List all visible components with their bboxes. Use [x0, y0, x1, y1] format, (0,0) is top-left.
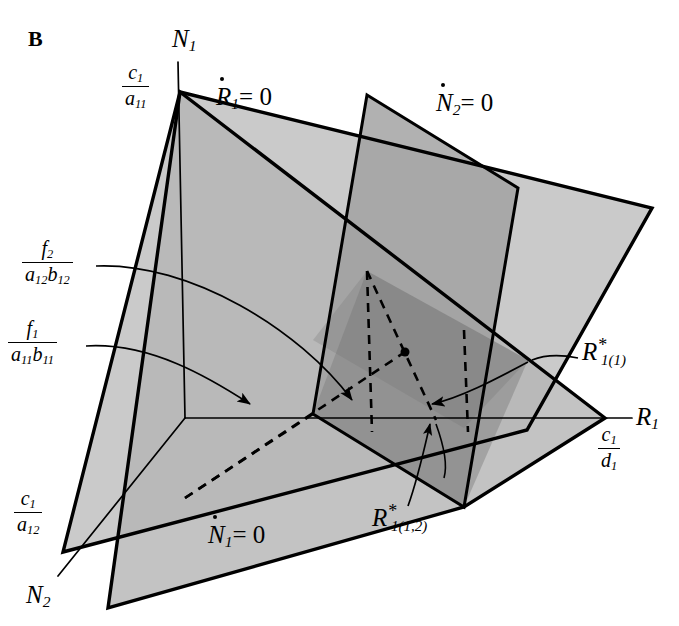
intercept-label-f1-a11b11: f1 a11b11	[8, 318, 57, 367]
fraction-numerator: c1	[598, 424, 620, 448]
nullcline-ndot1-equals: = 0	[232, 521, 265, 548]
fraction-denominator: a12b12	[22, 262, 73, 287]
nullcline-rdot1-symbol: R	[216, 83, 231, 110]
den-sub-b: 12	[57, 273, 69, 287]
intercept-label-c1-a12: c1 a12	[14, 488, 42, 537]
nullcline-ndot2-equals: = 0	[460, 89, 493, 116]
den-sub-a: 11	[21, 353, 32, 367]
den-symbol-a: a	[11, 343, 21, 365]
ndot1-symbol-with-dot: N	[208, 522, 225, 547]
equilibrium-label-r1-star-1-2: R*1(1,2)	[372, 502, 427, 534]
axis-label-n1-sub: 1	[189, 37, 197, 54]
nullcline-label-ndot1: N1= 0	[208, 522, 265, 550]
intercept-label-c1-d1: c1 d1	[598, 424, 620, 473]
axis-label-n2-symbol: N	[26, 581, 43, 608]
num-sub: 1	[32, 327, 38, 341]
den-sub: 1	[611, 459, 617, 473]
equilibrium-label-r1-star-1: R*1(1)	[582, 336, 626, 368]
fraction-numerator: f2	[22, 238, 73, 262]
overdot-icon	[213, 515, 217, 519]
axis-label-n1: N1	[172, 26, 196, 54]
figure-panel-b: B N1 R1 N2 R1= 0 N2= 0 N1= 0 c1 a11 f2	[0, 0, 679, 626]
axis-label-n2-sub: 2	[43, 593, 51, 610]
fraction-denominator: a12	[14, 512, 42, 537]
ndot2-symbol-with-dot: N	[436, 90, 453, 115]
fraction-denominator: a11	[122, 86, 149, 111]
num-sub: 1	[137, 71, 143, 85]
rdot1-symbol-with-dot: R	[216, 84, 231, 109]
den-symbol-a: a	[25, 263, 35, 285]
panel-label: B	[28, 28, 43, 50]
nullcline-rdot1-equals: = 0	[239, 83, 272, 110]
num-sub: 1	[610, 433, 616, 447]
nullcline-3d-diagram	[0, 0, 679, 626]
num-symbol: c	[128, 61, 137, 83]
fraction-f2-a12b12: f2 a12b12	[22, 238, 73, 287]
fraction-numerator: c1	[14, 488, 42, 512]
fraction-numerator: f1	[8, 318, 57, 342]
fraction-c1-d1: c1 d1	[598, 424, 620, 473]
eq-r1-symbol: R	[582, 338, 597, 365]
den-symbol: a	[17, 513, 27, 535]
axis-label-r1-sub: 1	[651, 415, 659, 432]
num-sub: 1	[30, 497, 36, 511]
axis-label-n2: N2	[26, 582, 50, 610]
eq-r12-index: 1(1,2)	[391, 518, 427, 534]
den-symbol-b: b	[47, 263, 57, 285]
nullcline-ndot2-symbol: N	[436, 89, 453, 116]
eq-r12-symbol: R	[372, 504, 387, 531]
fraction-numerator: c1	[122, 62, 149, 86]
overdot-icon	[220, 77, 224, 81]
intercept-label-f2-a12b12: f2 a12b12	[22, 238, 73, 287]
den-sub: 12	[27, 523, 39, 537]
axis-label-r1: R1	[636, 404, 659, 432]
axis-label-r1-symbol: R	[636, 403, 651, 430]
nullcline-label-ndot2: N2= 0	[436, 90, 493, 118]
den-sub-a: 12	[35, 273, 47, 287]
den-sub-b: 11	[42, 353, 53, 367]
eq-r1-index: 1(1)	[601, 352, 626, 368]
num-sub: 2	[47, 247, 53, 261]
intercept-label-c1-a11: c1 a11	[122, 62, 149, 111]
den-sub: 11	[135, 97, 146, 111]
nullcline-ndot1-symbol: N	[208, 521, 225, 548]
num-symbol: c	[21, 487, 30, 509]
fraction-denominator: d1	[598, 448, 620, 473]
fraction-f1-a11b11: f1 a11b11	[8, 318, 57, 367]
overdot-icon	[441, 83, 445, 87]
nullcline-label-rdot1: R1= 0	[216, 84, 272, 112]
equilibrium-point-dot	[401, 348, 410, 357]
den-symbol: d	[601, 449, 611, 471]
axis-label-n1-symbol: N	[172, 25, 189, 52]
fraction-c1-a12: c1 a12	[14, 488, 42, 537]
nullcline-rdot1-sub: 1	[231, 95, 239, 112]
den-symbol: a	[125, 87, 135, 109]
fraction-denominator: a11b11	[8, 342, 57, 367]
den-symbol-b: b	[32, 343, 42, 365]
fraction-c1-a11: c1 a11	[122, 62, 149, 111]
